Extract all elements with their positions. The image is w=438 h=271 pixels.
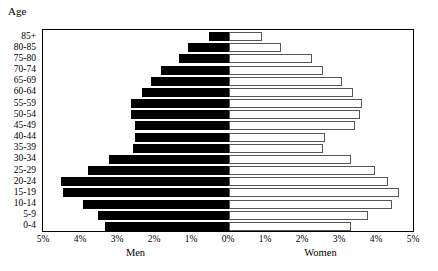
pyramid-row <box>44 31 414 42</box>
x-tick-label: 2% <box>296 234 309 245</box>
bar-men <box>188 43 229 52</box>
age-tick-label: 60-64 <box>14 86 36 96</box>
bar-men <box>209 32 229 41</box>
pyramid-row <box>44 109 414 120</box>
x-tick-label: 1% <box>185 234 198 245</box>
bar-men <box>109 155 229 164</box>
age-tick-label: 30-34 <box>14 153 36 163</box>
axis-caption-men: Men <box>126 247 145 259</box>
x-tick-label: 4% <box>74 234 87 245</box>
pyramid-row <box>44 143 414 154</box>
bar-men <box>151 77 229 86</box>
pyramid-row <box>44 76 414 87</box>
age-tick-label: 50-54 <box>14 109 36 119</box>
age-tick-label: 75-80 <box>14 53 36 63</box>
pyramid-row <box>44 176 414 187</box>
bar-men <box>105 222 229 231</box>
age-tick-label: 20-24 <box>14 176 36 186</box>
age-tick-label: 25-29 <box>14 165 36 175</box>
bar-men <box>88 166 229 175</box>
pyramid-row <box>44 165 414 176</box>
bar-women <box>229 66 323 75</box>
pyramid-row <box>44 98 414 109</box>
x-tick-label: 4% <box>370 234 383 245</box>
age-tick-label: 55-59 <box>14 98 36 108</box>
age-tick-label: 35-39 <box>14 142 36 152</box>
bar-men <box>135 121 229 130</box>
bar-women <box>229 110 360 119</box>
bar-women <box>229 166 375 175</box>
bar-women <box>229 121 355 130</box>
x-tick-label: 3% <box>111 234 124 245</box>
pyramid-row <box>44 42 414 53</box>
age-tick-label: 15-19 <box>14 187 36 197</box>
pyramid-row <box>44 199 414 210</box>
bar-men <box>63 188 230 197</box>
age-tick-label: 5-9 <box>23 209 36 219</box>
bar-men <box>133 144 229 153</box>
age-tick-label: 70-74 <box>14 64 36 74</box>
bar-men <box>131 110 229 119</box>
x-tick-label: 2% <box>148 234 161 245</box>
age-tick-label: 10-14 <box>14 198 36 208</box>
x-tick-label: 5% <box>37 234 50 245</box>
plot-area <box>42 29 414 232</box>
bar-women <box>229 188 399 197</box>
pyramid-row <box>44 65 414 76</box>
bar-men <box>142 88 229 97</box>
pyramid-row <box>44 187 414 198</box>
bar-women <box>229 32 262 41</box>
age-tick-label: 40-44 <box>14 131 36 141</box>
bar-men <box>179 54 229 63</box>
x-axis-tick-label-group: 5%4%3%2%1%0%1%2%3%4%5% <box>0 234 438 248</box>
bar-men <box>83 200 229 209</box>
age-tick-label: 45-49 <box>14 120 36 130</box>
pyramid-row <box>44 154 414 165</box>
age-axis-caption: Age <box>8 5 26 17</box>
x-tick-label: 3% <box>333 234 346 245</box>
bar-women <box>229 155 351 164</box>
age-tick-label-group: 85+80-8575-8070-7465-6960-6455-5950-5445… <box>0 29 39 232</box>
population-pyramid-chart: Age 85+80-8575-8070-7465-6960-6455-5950-… <box>0 0 438 271</box>
age-tick-label: 0-4 <box>23 220 36 230</box>
pyramid-row <box>44 120 414 131</box>
x-tick-label: 1% <box>259 234 272 245</box>
x-tick-label: 5% <box>407 234 420 245</box>
age-tick-label: 85+ <box>21 31 36 41</box>
bar-women <box>229 177 388 186</box>
bar-women <box>229 211 368 220</box>
pyramid-row <box>44 221 414 232</box>
pyramid-row <box>44 210 414 221</box>
bar-women <box>229 77 342 86</box>
bar-women <box>229 54 312 63</box>
bar-women <box>229 200 392 209</box>
age-tick-label: 65-69 <box>14 75 36 85</box>
bar-men <box>161 66 229 75</box>
bar-women <box>229 133 325 142</box>
x-tick-label: 0% <box>222 234 235 245</box>
bar-men <box>135 133 229 142</box>
axis-caption-women: Women <box>304 247 336 259</box>
bar-women <box>229 88 353 97</box>
bar-women <box>229 144 323 153</box>
bar-women <box>229 222 351 231</box>
bar-rows <box>43 30 413 231</box>
bar-women <box>229 99 362 108</box>
pyramid-row <box>44 87 414 98</box>
age-tick-label: 80-85 <box>14 42 36 52</box>
bar-men <box>131 99 229 108</box>
pyramid-row <box>44 132 414 143</box>
bar-men <box>61 177 229 186</box>
bar-women <box>229 43 281 52</box>
bar-men <box>98 211 229 220</box>
pyramid-row <box>44 53 414 64</box>
